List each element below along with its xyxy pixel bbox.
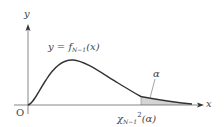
x-axis-label: x bbox=[206, 99, 212, 109]
alpha-label: α bbox=[153, 69, 160, 79]
origin-label: O bbox=[16, 108, 24, 118]
equation-lhs: y = f bbox=[48, 41, 72, 52]
density-curve bbox=[28, 60, 192, 105]
alpha-leader-line bbox=[150, 79, 155, 98]
equation-subscript: N−1 bbox=[72, 46, 86, 53]
y-axis-label: y bbox=[24, 9, 30, 19]
chi-square-density-plot bbox=[0, 0, 224, 127]
chi-argument: (α) bbox=[142, 113, 157, 124]
critical-value-label: χN−12(α) bbox=[117, 112, 156, 125]
curve-equation-label: y = fN−1(x) bbox=[48, 42, 100, 53]
chi-subscript: N−1 bbox=[123, 118, 137, 125]
equation-rhs: (x) bbox=[86, 41, 99, 52]
